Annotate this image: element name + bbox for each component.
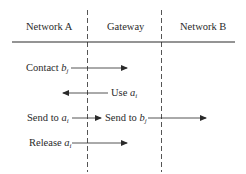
message-label-contact: Contact bj	[26, 62, 69, 77]
message-label-release: Release ai	[29, 137, 71, 152]
column-header-network-b: Network B	[180, 21, 226, 33]
gateway-message-diagram: Network A Gateway Network B Contact bj U…	[0, 0, 246, 174]
column-header-network-a: Network A	[26, 21, 72, 33]
message-label-send-to-b: Send to bj	[105, 112, 147, 127]
message-label-send-to-a: Send to ai	[27, 112, 69, 127]
message-label-use: Use ai	[111, 87, 137, 102]
column-header-gateway: Gateway	[107, 21, 144, 33]
